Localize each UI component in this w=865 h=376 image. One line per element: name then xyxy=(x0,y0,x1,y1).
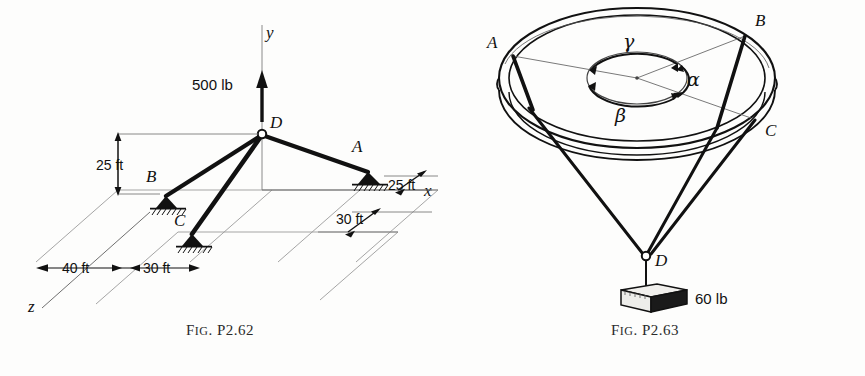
dimension-label-25ft-x: 25 ft xyxy=(388,177,415,193)
figure-page: y x z 500 lb D xyxy=(0,0,865,376)
caption-rest: . P2.62 xyxy=(208,322,254,338)
ground-plane-grid xyxy=(36,190,438,304)
joint-label-A: A xyxy=(351,137,363,156)
weight-block xyxy=(621,284,687,312)
ring-center-point xyxy=(635,76,639,80)
load-label-60lb: 60 lb xyxy=(695,290,728,307)
joint-label-D: D xyxy=(269,113,283,132)
z-axis-line xyxy=(42,212,150,308)
y-axis-label: y xyxy=(264,23,274,42)
joint-label-A: A xyxy=(486,33,498,52)
figure-p2-62-drawing: y x z 500 lb D xyxy=(0,0,440,320)
joint-label-C: C xyxy=(174,211,186,230)
dimension-label-25ft-height: 25 ft xyxy=(96,157,123,173)
dimension-label-40ft: 40 ft xyxy=(62,260,89,276)
dimension-label-30ft-x: 30 ft xyxy=(336,211,363,227)
figure-p2-63-drawing: γ α β D A B C xyxy=(425,0,865,320)
angle-label-gamma: γ xyxy=(623,30,635,52)
support-A xyxy=(352,172,388,191)
hoop-ring xyxy=(497,8,777,160)
dimension-label-30ft-z: 30 ft xyxy=(143,260,170,276)
member-DC xyxy=(192,135,262,234)
figure-p2-63: γ α β D A B C xyxy=(425,0,865,376)
joint-label-B: B xyxy=(755,11,766,30)
support-C xyxy=(176,234,212,253)
dimension-height-25ft xyxy=(115,132,258,196)
joint-D-node xyxy=(258,130,266,138)
caption-prefix: F xyxy=(186,322,195,338)
member-DB xyxy=(166,135,262,196)
cable-AD xyxy=(529,108,643,254)
angle-arrowheads xyxy=(588,63,684,100)
caption-rest: . P2.63 xyxy=(633,322,679,338)
dimension-z-line xyxy=(36,264,200,272)
joint-label-D: D xyxy=(654,251,668,270)
load-arrow-500lb xyxy=(256,70,268,122)
rim-chord-A xyxy=(513,56,533,110)
joint-D-node xyxy=(642,252,650,260)
caption-prefix: F xyxy=(611,322,620,338)
joint-label-B: B xyxy=(146,167,157,186)
figure-caption-p2-62: FIG. P2.62 xyxy=(0,322,440,339)
caption-smallcaps: IG xyxy=(620,324,634,338)
load-label-500lb: 500 lb xyxy=(192,76,233,93)
joint-label-C: C xyxy=(765,121,777,140)
angle-label-alpha: α xyxy=(687,68,700,90)
angle-label-beta: β xyxy=(614,104,626,126)
z-axis-label: z xyxy=(27,297,35,316)
figure-caption-p2-63: FIG. P2.63 xyxy=(425,322,865,339)
figure-p2-62: y x z 500 lb D xyxy=(0,0,440,376)
caption-smallcaps: IG xyxy=(195,324,209,338)
